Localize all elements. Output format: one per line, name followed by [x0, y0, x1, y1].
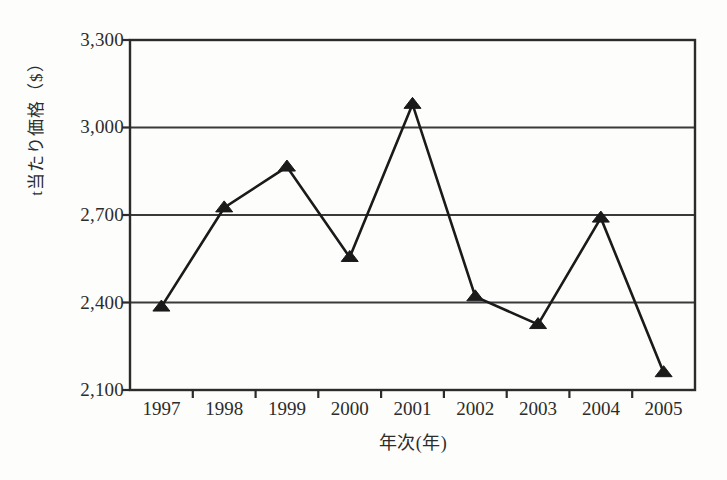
x-axis-tick-labels: 1997 1998 1999 2000 2001 2002 2003 2004 … — [130, 398, 696, 428]
data-point-marker — [341, 250, 358, 261]
x-tick-label: 2003 — [503, 398, 573, 420]
data-point-marker — [467, 290, 484, 301]
data-point-marker — [592, 211, 609, 222]
x-tick-label: 2005 — [629, 398, 699, 420]
x-tick-label: 2004 — [566, 398, 636, 420]
x-axis-ticks — [193, 390, 632, 398]
series-line — [161, 104, 663, 372]
data-point-marker — [404, 97, 421, 108]
data-point-marker — [278, 160, 295, 171]
x-tick-label: 1999 — [252, 398, 322, 420]
gridlines — [130, 128, 695, 303]
x-axis-title: 年次(年) — [130, 428, 696, 454]
series-markers — [153, 97, 672, 376]
x-tick-label: 1998 — [189, 398, 259, 420]
x-tick-label: 2001 — [378, 398, 448, 420]
data-point-marker — [655, 366, 672, 377]
x-tick-label: 2000 — [315, 398, 385, 420]
x-tick-label: 1997 — [126, 398, 196, 420]
line-chart: 3,300 3,000 2,700 2,400 2,100 t当たり価格（$） — [0, 0, 727, 480]
x-tick-label: 2002 — [440, 398, 510, 420]
